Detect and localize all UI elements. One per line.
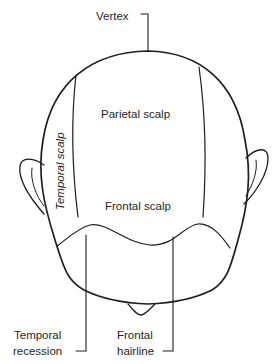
temporal-recession-label-line1: Temporal	[14, 328, 61, 342]
frontal-hairline	[57, 224, 230, 248]
parietal-scalp-label: Parietal scalp	[101, 107, 170, 121]
scalp-diagram: Vertex Parietal scalp Temporal scalp Fro…	[0, 0, 277, 364]
right-temporal-boundary	[199, 67, 205, 217]
temporal-scalp-label: Temporal scalp	[53, 132, 67, 210]
temporal-recession-label-line2: recession	[13, 344, 62, 358]
vertex-label: Vertex	[96, 9, 129, 23]
nose	[128, 304, 155, 315]
head-outline-drawing	[0, 0, 277, 364]
frontal-hairline-leader-line	[163, 237, 173, 351]
temporal-recession-leader-line	[76, 235, 86, 351]
vertex-leader-line	[141, 14, 148, 51]
frontal-scalp-label: Frontal scalp	[105, 199, 171, 213]
frontal-hairline-label-line2: hairline	[117, 344, 154, 358]
head-outline	[41, 51, 249, 304]
left-temporal-boundary	[73, 75, 78, 217]
frontal-hairline-label-line1: Frontal	[117, 328, 153, 342]
